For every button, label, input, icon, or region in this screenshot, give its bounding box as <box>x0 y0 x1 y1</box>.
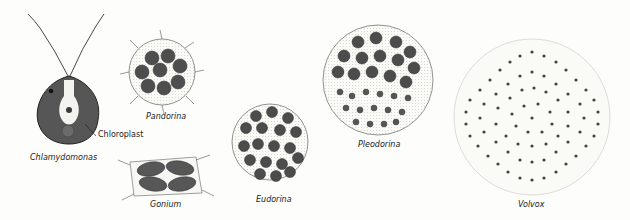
volvox-figure <box>454 39 610 195</box>
pleodorina-figure <box>323 25 433 135</box>
algae-diagram <box>0 0 630 220</box>
label-pandorina: Pandorina <box>146 112 186 121</box>
label-chlamydomonas: Chlamydomonas <box>30 153 97 162</box>
label-volvox: Volvox <box>518 200 544 209</box>
gonium-figure <box>118 155 214 200</box>
pandorina-figure <box>120 30 204 114</box>
label-pleodorina: Pleodorina <box>358 140 400 149</box>
label-eudorina: Eudorina <box>256 195 292 204</box>
chlamydomonas-figure <box>28 14 104 144</box>
eudorina-figure <box>232 104 308 182</box>
label-chloroplast: Chloroplast <box>98 130 143 139</box>
label-gonium: Gonium <box>150 200 181 209</box>
